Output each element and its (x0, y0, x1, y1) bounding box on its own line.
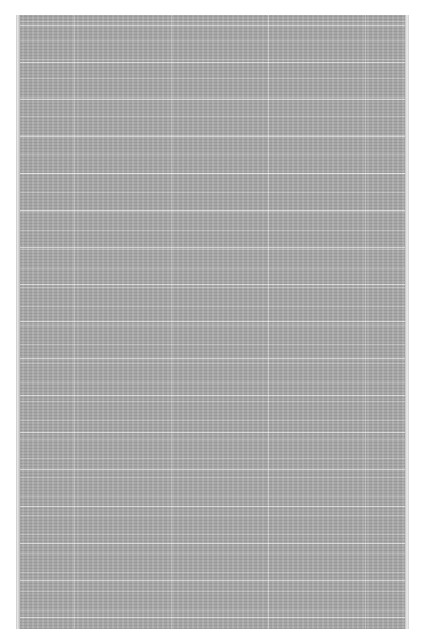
page-right-edge (405, 15, 409, 629)
page-text-content (24, 22, 402, 622)
page-left-edge (16, 15, 20, 629)
